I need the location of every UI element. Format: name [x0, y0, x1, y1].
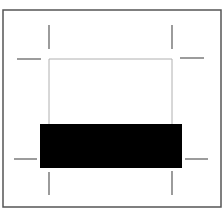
outer-frame: [3, 10, 221, 207]
crop-marks-group: [14, 25, 208, 195]
crop-mark-diagram: [0, 0, 224, 211]
black-bleed-bar: [40, 124, 182, 168]
